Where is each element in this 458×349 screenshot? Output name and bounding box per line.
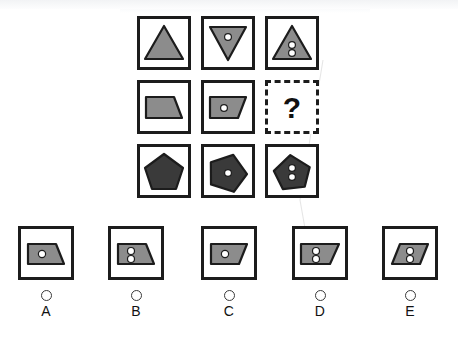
trapezoid-icon [142,85,186,129]
matrix-cell-r3c3 [265,144,319,198]
option-a-radio[interactable] [41,290,52,301]
option-d-radio[interactable] [315,290,326,301]
scan-banding-top [0,0,458,9]
matrix-cell-r3c1 [137,144,191,198]
option-a-figure[interactable] [18,226,74,280]
matrix-cell-r3c2 [201,144,255,198]
option-c-label: C [199,303,259,319]
option-d[interactable]: D [290,226,350,319]
option-b-figure[interactable] [108,226,164,280]
option-a[interactable]: A [16,226,76,319]
matrix-cell-r2c1 [137,80,191,134]
trapezoid-icon [206,231,252,275]
trapezoid-icon [113,231,159,275]
option-d-label: D [290,303,350,319]
option-b[interactable]: B [106,226,166,319]
matrix-cell-r2c2 [201,80,255,134]
triangle-up-icon [142,21,186,65]
pentagon-icon [206,149,250,193]
option-e-label: E [380,303,440,319]
trapezoid-icon [23,231,69,275]
trapezoid-icon [297,231,343,275]
trapezoid-icon [206,85,250,129]
matrix-cell-r1c3 [265,16,319,70]
triangle-down-icon [206,21,250,65]
option-c[interactable]: C [199,226,259,319]
pentagon-icon [142,149,186,193]
option-c-radio[interactable] [224,290,235,301]
option-c-figure[interactable] [201,226,257,280]
option-b-label: B [106,303,166,319]
option-a-label: A [16,303,76,319]
scan-banding-secondary [120,9,370,13]
answer-options: A B C [0,226,458,346]
matrix-cell-missing[interactable]: ? [265,80,319,134]
pentagon-icon [270,149,314,193]
option-b-radio[interactable] [131,290,142,301]
option-e-radio[interactable] [405,290,416,301]
matrix-cell-r1c2 [201,16,255,70]
question-mark-label: ? [283,93,301,123]
option-e[interactable]: E [380,226,440,319]
triangle-up-icon [270,21,314,65]
option-d-figure[interactable] [292,226,348,280]
parallelogram-icon [387,231,433,275]
matrix-cell-r1c1 [137,16,191,70]
option-e-figure[interactable] [382,226,438,280]
